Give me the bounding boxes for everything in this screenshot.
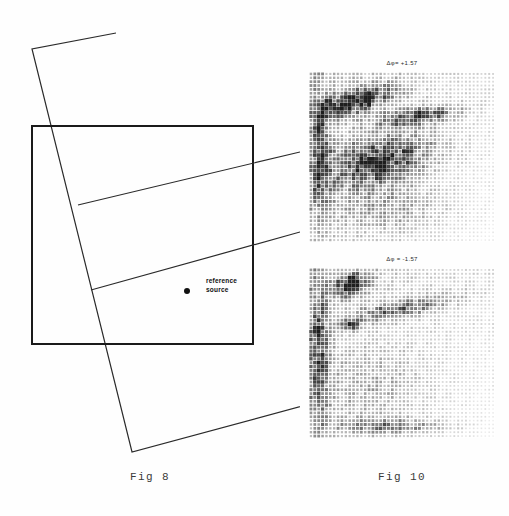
interferogram-canvas-minus (309, 268, 495, 438)
reference-source-label-line1: reference (206, 276, 237, 285)
scanned-page: reference source Δφ= +1.57 Δφ = -1.57 Fi… (0, 0, 509, 516)
halftone-caption-plus: Δφ= +1.57 (309, 60, 495, 66)
figure-10: Δφ= +1.57 Δφ = -1.57 (295, 0, 509, 470)
reference-source-label-line2: source (206, 285, 237, 294)
tilted-quadrilateral (32, 33, 300, 452)
figure-10-caption: Fig 10 (295, 471, 509, 483)
diagonal-ray-upper (78, 152, 300, 205)
figure-8-linework (0, 0, 300, 470)
halftone-panel-plus: Δφ= +1.57 (309, 60, 495, 242)
reference-source-dot (184, 288, 190, 294)
figure-8: reference source (0, 0, 300, 470)
interferogram-canvas-plus (309, 72, 495, 242)
figure-8-caption: Fig 8 (0, 471, 300, 483)
halftone-caption-minus: Δφ = -1.57 (309, 256, 495, 262)
upright-rectangle (32, 126, 253, 344)
halftone-panel-minus: Δφ = -1.57 (309, 256, 495, 438)
reference-source-label: reference source (206, 276, 237, 294)
diagonal-ray-lower (91, 232, 300, 290)
